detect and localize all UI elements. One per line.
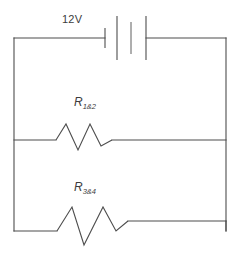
resistor-3-4-label-subscript: 3&4 [83,187,96,196]
resistor-1-2-label-main: R [74,95,83,109]
resistor-1-2-label-subscript: 1&2 [83,102,96,111]
resistor-3-4-label-main: R [74,180,83,194]
resistor-1-2-zigzag [56,124,112,150]
resistor-3-4-label: R3&4 [74,181,96,193]
circuit-schematic-svg [0,0,240,255]
resistor-3-4-zigzag [57,207,128,245]
circuit-diagram: 12V R1&2 R3&4 [0,0,240,255]
resistor-1-2-label: R1&2 [74,96,96,108]
battery-voltage-label: 12V [62,14,82,25]
